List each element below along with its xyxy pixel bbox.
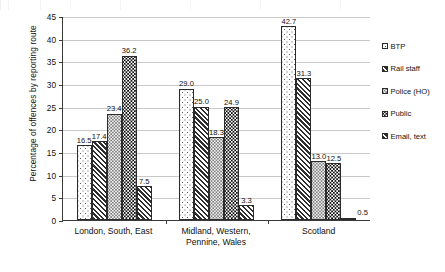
bar: 12.5 [326, 163, 341, 220]
chart-legend: BTPRail staffPolice (HO)PublicEmail, tex… [382, 40, 430, 153]
bar-value-label: 16.5 [77, 136, 92, 145]
legend-swatch [382, 66, 388, 72]
legend-label: Public [391, 109, 412, 118]
y-axis-tick-label: 25 [47, 103, 56, 113]
x-axis-category-label: Midland, Western,Pennine, Wales [165, 226, 268, 248]
y-axis-tick-label: 0 [51, 216, 56, 226]
bar: 13.0 [311, 161, 326, 220]
bar-value-label: 3.3 [241, 196, 252, 205]
bar: 42.7 [281, 26, 296, 220]
bar: 17.4 [92, 141, 107, 220]
legend-swatch [382, 133, 388, 139]
scan-artifact [0, 0, 445, 10]
bar-value-label: 23.4 [107, 104, 122, 113]
legend-item: BTP [382, 40, 430, 52]
y-axis-title: Percentage of offences by reporting rout… [28, 9, 39, 199]
bar-value-label: 18.3 [209, 128, 224, 137]
legend-item: Public [382, 108, 430, 120]
legend-item: Email, text [382, 130, 430, 142]
y-axis-tick-label: 5 [51, 193, 56, 203]
bar-value-label: 29.0 [179, 79, 194, 88]
bar-value-label: 24.9 [224, 98, 239, 107]
bar: 24.9 [224, 107, 239, 220]
y-axis-tick-label: 20 [47, 125, 56, 135]
bar: 3.3 [239, 205, 254, 220]
y-axis-tick-label: 35 [47, 57, 56, 67]
bar-chart: Percentage of offences by reporting rout… [0, 0, 445, 272]
bar: 7.5 [137, 186, 152, 220]
bar-group: 42.731.313.012.50.5 [268, 17, 370, 220]
bar: 29.0 [179, 89, 194, 220]
bar-value-label: 7.5 [139, 177, 150, 186]
bar-value-label: 31.3 [296, 69, 311, 78]
y-axis-tick-label: 15 [47, 148, 56, 158]
legend-swatch [382, 111, 388, 117]
bar: 16.5 [77, 145, 92, 220]
legend-label: BTP [391, 42, 406, 51]
bar-value-label: 25.0 [194, 97, 209, 106]
bar-value-label: 0.5 [357, 208, 368, 217]
y-axis-tick [59, 221, 63, 222]
bar-value-label: 13.0 [311, 152, 326, 161]
bar-group: 29.025.018.324.93.3 [165, 17, 267, 220]
bar: 0.5 [341, 218, 356, 220]
bar: 18.3 [209, 137, 224, 220]
x-axis-category-label: Scotland [267, 226, 370, 248]
bar: 23.4 [107, 114, 122, 220]
y-axis-tick-label: 40 [47, 35, 56, 45]
legend-swatch [382, 88, 388, 94]
legend-swatch [382, 43, 388, 49]
x-axis-labels: London, South, EastMidland, Western,Penn… [62, 226, 370, 248]
legend-label: Rail staff [391, 64, 420, 73]
bar-value-label: 17.4 [92, 132, 107, 141]
bar-value-label: 36.2 [122, 46, 137, 55]
category-separator-tick [268, 220, 269, 224]
bar-group: 16.517.423.436.27.5 [63, 17, 165, 220]
category-separator-tick [166, 220, 167, 224]
bar-value-label: 42.7 [281, 17, 296, 26]
x-axis-category-label: London, South, East [62, 226, 165, 248]
y-axis-tick-label: 45 [47, 12, 56, 22]
y-axis-tick-label: 30 [47, 80, 56, 90]
bar-groups: 16.517.423.436.27.529.025.018.324.93.342… [63, 17, 370, 220]
legend-item: Rail staff [382, 63, 430, 75]
bar: 25.0 [194, 107, 209, 220]
plot-area: 051015202530354045 16.517.423.436.27.529… [62, 17, 370, 221]
bar: 31.3 [296, 78, 311, 220]
bar-value-label: 12.5 [326, 154, 341, 163]
legend-item: Police (HO) [382, 85, 430, 97]
bar: 36.2 [122, 56, 137, 220]
legend-label: Email, text [391, 132, 426, 141]
y-axis-tick-label: 10 [47, 171, 56, 181]
legend-label: Police (HO) [391, 87, 430, 96]
